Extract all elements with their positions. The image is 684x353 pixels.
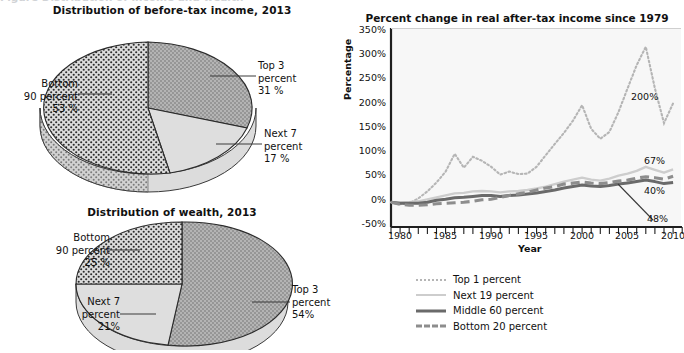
pie-2-next7-value: 21%: [98, 321, 120, 332]
line-chart-legend: Top 1 percent Next 19 percent Middle 60 …: [416, 272, 616, 334]
pie-2-next7-line2: percent: [82, 309, 120, 320]
x-tick-1995: 1995: [519, 230, 553, 241]
pie-2-bottom90-line1: Bottom: [73, 232, 110, 243]
figure-panel: Figure Distribution of income and wealth…: [0, 0, 684, 353]
legend-label-middle-60-percent: Middle 60 percent: [453, 305, 543, 316]
annotation-bottom-20-percent: 40%: [644, 185, 665, 196]
legend-label-bottom-20-percent: Bottom 20 percent: [453, 321, 547, 332]
x-tick-1985: 1985: [428, 230, 462, 241]
pie-1-label-top3: Top 3 percent 31 %: [258, 60, 296, 98]
pie-1-title: Distribution of before-tax income, 2013: [0, 4, 344, 16]
pie-2-label-next7: Next 7 percent 21%: [40, 296, 120, 334]
pie-2-label-bottom90: Bottom 90 percent 25 %: [26, 232, 110, 270]
pie-2-top3-line1: Top 3: [292, 284, 318, 295]
pie-2-bottom90-line2: 90 percent: [56, 245, 110, 256]
legend-item-middle-60-percent[interactable]: Middle 60 percent: [416, 303, 616, 319]
x-tick-1990: 1990: [474, 230, 508, 241]
legend-swatch-dotted-icon: [416, 275, 446, 285]
pie-1-bottom90-value: 53 %: [53, 103, 78, 114]
annotation-next-19-percent: 67%: [644, 155, 665, 166]
pie-1-label-bottom90: Bottom 90 percent 53 %: [0, 78, 78, 116]
pie-2-title: Distribution of wealth, 2013: [0, 206, 344, 218]
legend-swatch-solid-thin-icon: [416, 290, 446, 300]
line-chart-plot-area: [344, 8, 684, 248]
pie-1-next7-line2: percent: [264, 141, 302, 152]
pie-chart-wealth: Distribution of wealth, 2013: [0, 206, 344, 353]
pie-2-next7-line1: Next 7: [87, 296, 120, 307]
legend-swatch-dashed-thick-icon: [416, 321, 446, 331]
pie-2-top3-line2: percent: [292, 297, 330, 308]
x-tick-2000: 2000: [565, 230, 599, 241]
pie-1-bottom90-line2: 90 percent: [24, 91, 78, 102]
pie-1-bottom90-line1: Bottom: [41, 78, 78, 89]
x-tick-1980: 1980: [383, 230, 417, 241]
pie-1-next7-line1: Next 7: [264, 128, 297, 139]
pie-2-label-top3: Top 3 percent 54%: [292, 284, 330, 322]
pie-1-top3-line2: percent: [258, 73, 296, 84]
pie-1-label-next7: Next 7 percent 17 %: [264, 128, 302, 166]
pie-1-top3-line1: Top 3: [258, 60, 284, 71]
annotation-middle-60-percent: 48%: [647, 213, 668, 224]
pie-2-bottom90-value: 25 %: [85, 257, 110, 268]
legend-item-next-19-percent[interactable]: Next 19 percent: [416, 288, 616, 304]
annotation-top-1-percent: 200%: [631, 91, 658, 102]
pie-chart-before-tax-income: Distribution of before-tax income, 2013: [0, 4, 344, 204]
pie-1-next7-value: 17 %: [264, 153, 289, 164]
x-tick-2005: 2005: [610, 230, 644, 241]
pie-1-top3-value: 31 %: [258, 85, 283, 96]
legend-swatch-solid-thick-icon: [416, 306, 446, 316]
pie-2-top3-value: 54%: [292, 309, 314, 320]
pie-charts-column: Distribution of before-tax income, 2013: [0, 4, 344, 353]
legend-item-top-1-percent[interactable]: Top 1 percent: [416, 272, 616, 288]
line-chart-x-axis-title: Year: [518, 243, 542, 254]
legend-label-top-1-percent: Top 1 percent: [453, 274, 521, 285]
x-tick-2010: 2010: [656, 230, 684, 241]
legend-item-bottom-20-percent[interactable]: Bottom 20 percent: [416, 319, 616, 335]
legend-label-next-19-percent: Next 19 percent: [453, 290, 534, 301]
